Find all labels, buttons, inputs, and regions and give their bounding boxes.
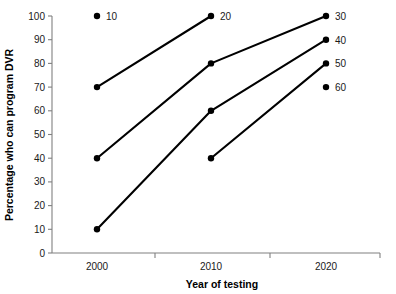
data-point-marker — [208, 13, 214, 19]
y-tick-label: 70 — [34, 82, 46, 93]
point-label: 30 — [335, 11, 347, 22]
data-point-marker — [208, 60, 214, 66]
data-point-marker — [208, 108, 214, 114]
point-label: 20 — [220, 11, 232, 22]
x-tick-label: 2020 — [315, 261, 338, 272]
y-axis-ticks: 0102030405060708090100 — [28, 11, 52, 259]
data-point-marker — [323, 13, 329, 19]
point-label: 50 — [335, 58, 347, 69]
x-tick-label: 2010 — [200, 261, 223, 272]
y-axis-group: 0102030405060708090100 — [28, 11, 52, 259]
x-tick-label: 2000 — [86, 261, 109, 272]
data-point-marker — [208, 155, 214, 161]
series-group — [94, 13, 329, 233]
annotation-marker — [323, 84, 329, 90]
series-line — [97, 16, 326, 158]
y-tick-label: 80 — [34, 58, 46, 69]
y-tick-label: 100 — [28, 11, 45, 22]
y-tick-label: 10 — [34, 224, 46, 235]
y-tick-label: 0 — [39, 248, 45, 259]
x-axis-group: 200020102020 — [52, 253, 380, 272]
y-tick-label: 90 — [34, 34, 46, 45]
line-chart: 0102030405060708090100 200020102020 1020… — [0, 0, 396, 294]
y-tick-label: 60 — [34, 105, 46, 116]
point-label: 10 — [106, 11, 118, 22]
y-tick-label: 30 — [34, 176, 46, 187]
data-point-marker — [94, 226, 100, 232]
y-tick-label: 40 — [34, 153, 46, 164]
y-tick-label: 50 — [34, 129, 46, 140]
series-line — [211, 63, 326, 158]
series-line — [97, 40, 326, 230]
data-point-marker — [94, 84, 100, 90]
x-axis-title: Year of testing — [186, 278, 258, 290]
data-point-marker — [94, 155, 100, 161]
point-label: 40 — [335, 35, 347, 46]
y-tick-label: 20 — [34, 200, 46, 211]
annotation-marker — [94, 13, 100, 19]
chart-container: 0102030405060708090100 200020102020 1020… — [0, 0, 396, 294]
point-label: 60 — [335, 82, 347, 93]
data-point-marker — [323, 60, 329, 66]
x-axis-ticks: 200020102020 — [86, 253, 380, 272]
data-point-marker — [323, 37, 329, 43]
y-axis-title: Percentage who can program DVR — [3, 49, 15, 222]
